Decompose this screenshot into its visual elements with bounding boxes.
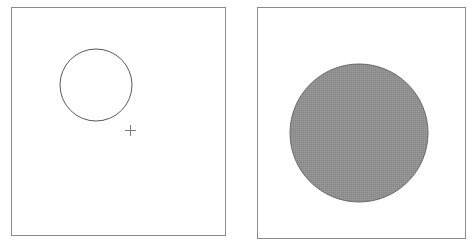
figure-root: Left panel: small unfilled circle outlin… [0,0,472,251]
left-panel [11,7,226,236]
filled-circle [290,64,428,202]
right-panel-shapes [257,7,466,239]
plus-marker [125,125,136,136]
right-panel [257,7,466,239]
outline-circle [60,49,132,121]
left-panel-shapes [11,7,226,236]
